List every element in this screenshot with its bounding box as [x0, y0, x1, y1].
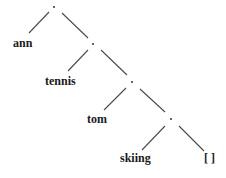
leaf-skiing: skiing	[120, 152, 151, 164]
edge-n3-l3	[104, 88, 126, 110]
edge-n1-l1	[29, 12, 49, 33]
edge-n1-n2	[62, 13, 88, 38]
tree-nodes	[53, 6, 172, 120]
edge-n2-l2	[68, 50, 88, 71]
node-dot-n3	[131, 81, 133, 83]
edge-n4-l4	[142, 126, 165, 150]
tree-diagram	[0, 0, 226, 178]
leaf-empty-list: [ ]	[204, 152, 215, 164]
edge-n2-n3	[101, 50, 127, 75]
node-dot-n1	[53, 6, 55, 8]
edge-n4-l5	[179, 126, 204, 151]
node-dot-n2	[92, 43, 94, 45]
edge-n3-n4	[140, 89, 165, 112]
leaf-tom: tom	[87, 113, 107, 125]
node-dot-n4	[170, 118, 172, 120]
leaf-ann: ann	[13, 37, 32, 49]
leaf-tennis: tennis	[45, 75, 76, 87]
